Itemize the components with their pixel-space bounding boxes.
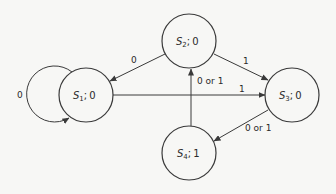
edge-label-s1-s1: 0 [17,90,23,100]
edge-s4-s2: 0 or 1 [191,69,223,126]
edge-s1-s3: 1 [113,84,265,95]
edge-label-s2-s3: 1 [243,56,249,66]
state-s2-label: S2;0 [176,36,199,49]
state-s3-label: S3;0 [279,90,302,103]
edge-label-s2-s1: 0 [131,55,137,65]
state-s1-label: S1;0 [73,90,96,103]
state-s3: S3;0 [265,68,319,122]
edge-s2-s1: 0 [110,54,165,81]
edge-label-s4-s2: 0 or 1 [197,76,223,86]
edge-s1-s1: 0 [17,66,72,122]
edge-label-s3-s4: 0 or 1 [245,123,271,133]
state-diagram: 0 0 1 1 0 or 1 0 or 1 S1;0 S2;0 S3;0 S [0,0,336,194]
state-s1: S1;0 [59,68,113,122]
state-s4: S4;1 [162,126,216,180]
edge-label-s1-s3: 1 [239,84,245,94]
edge-s3-s4: 0 or 1 [214,110,271,141]
state-s4-label: S4;1 [177,148,200,161]
state-s2: S2;0 [162,14,216,68]
